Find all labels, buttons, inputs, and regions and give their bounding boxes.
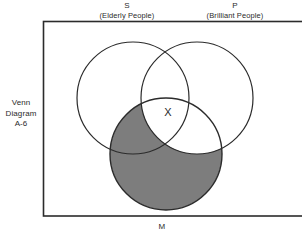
set-label-m-letter: M (140, 222, 184, 232)
x-marker: X (160, 104, 176, 120)
set-label-m: M (140, 222, 184, 232)
venn-diagram-screenshot: S (Elderly People) P (Brilliant People) … (0, 0, 302, 234)
venn-diagram-graphic (0, 0, 302, 234)
